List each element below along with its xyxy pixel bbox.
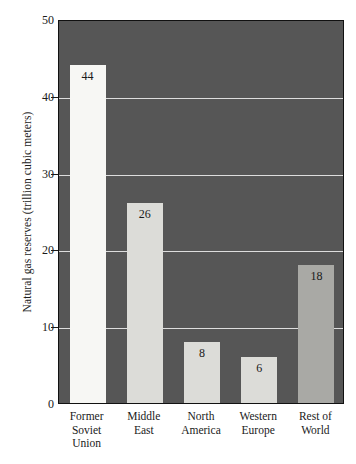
x-axis-label-line: Middle bbox=[115, 410, 172, 424]
y-axis-title: Natural gas reserves (trillion cubic met… bbox=[18, 20, 36, 404]
x-axis-label: FormerSovietUnion bbox=[58, 410, 115, 451]
x-axis-label-line: Former bbox=[58, 410, 115, 424]
bar: 18 bbox=[298, 265, 334, 403]
y-tick-label: 30 bbox=[14, 168, 54, 180]
y-tick-mark bbox=[51, 327, 58, 328]
bar-chart-figure: Natural gas reserves (trillion cubic met… bbox=[0, 0, 356, 464]
x-axis-label-line: Europe bbox=[230, 424, 287, 438]
x-axis-label-line: Western bbox=[230, 410, 287, 424]
x-axis-label-line: North bbox=[172, 410, 229, 424]
y-tick-label: 20 bbox=[14, 244, 54, 256]
y-tick-mark bbox=[51, 97, 58, 98]
x-axis-label: Rest ofWorld bbox=[287, 410, 344, 437]
bar: 6 bbox=[241, 357, 277, 403]
bar-value-label: 8 bbox=[184, 347, 220, 359]
x-axis-label-line: World bbox=[287, 424, 344, 438]
x-axis-label: NorthAmerica bbox=[172, 410, 229, 437]
y-tick-mark bbox=[51, 250, 58, 251]
bar-value-label: 26 bbox=[127, 208, 163, 220]
x-axis-label-line: Soviet bbox=[58, 424, 115, 438]
y-tick-label: 0 bbox=[14, 398, 54, 410]
bar: 26 bbox=[127, 203, 163, 403]
x-axis-label: WesternEurope bbox=[230, 410, 287, 437]
x-axis-label-line: East bbox=[115, 424, 172, 438]
x-axis-label-line: America bbox=[172, 424, 229, 438]
y-tick-label: 50 bbox=[14, 14, 54, 26]
x-axis-label-line: Union bbox=[58, 437, 115, 451]
plot-area: 44268618 bbox=[58, 20, 344, 404]
y-tick-label: 40 bbox=[14, 91, 54, 103]
bar: 44 bbox=[70, 65, 106, 403]
bar-value-label: 18 bbox=[298, 270, 334, 282]
bar-value-label: 44 bbox=[70, 70, 106, 82]
bar-value-label: 6 bbox=[241, 362, 277, 374]
x-axis-label: MiddleEast bbox=[115, 410, 172, 437]
y-tick-mark bbox=[51, 174, 58, 175]
x-axis-label-line: Rest of bbox=[287, 410, 344, 424]
y-tick-label: 10 bbox=[14, 321, 54, 333]
bar: 8 bbox=[184, 342, 220, 403]
